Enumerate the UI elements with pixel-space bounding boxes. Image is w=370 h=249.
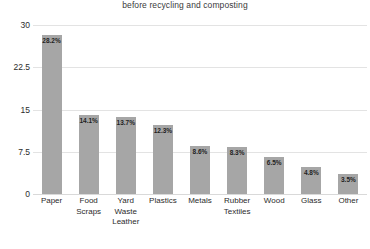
x-axis-category-line: Textiles: [220, 207, 255, 218]
x-axis-category-line: Glass: [294, 196, 329, 207]
y-axis-tick-label: 7.5: [2, 147, 30, 156]
x-axis-category-label: Paper: [33, 196, 70, 228]
bar-value-label: 14.1%: [79, 117, 97, 125]
bar-slot: 28.2%: [33, 25, 70, 194]
y-axis-tick-label: 30: [2, 21, 30, 30]
x-axis-category-line: Leather: [108, 217, 143, 228]
bar[interactable]: 28.2%: [42, 35, 62, 194]
bar-slot: 12.3%: [144, 25, 181, 194]
x-axis-category-line: Food: [71, 196, 106, 207]
bar-slot: 8.6%: [181, 25, 218, 194]
bar[interactable]: 8.6%: [190, 146, 210, 194]
gridline: [33, 194, 367, 195]
x-axis-category-line: Other: [331, 196, 366, 207]
bar-value-label: 6.5%: [267, 159, 282, 167]
bar-slot: 8.3%: [219, 25, 256, 194]
bar[interactable]: 4.8%: [301, 167, 321, 194]
bar-chart: before recycling and composting 07.51522…: [0, 0, 370, 249]
x-axis-category-line: Plastics: [145, 196, 180, 207]
bar[interactable]: 3.5%: [338, 174, 358, 194]
y-axis-tick-label: 15: [2, 105, 30, 114]
x-axis-category-label: Wood: [256, 196, 293, 228]
bars-container: 28.2%14.1%13.7%12.3%8.6%8.3%6.5%4.8%3.5%: [33, 25, 367, 194]
x-axis-category-label: Glass: [293, 196, 330, 228]
bar[interactable]: 6.5%: [264, 157, 284, 194]
x-axis-category-line: Rubber: [220, 196, 255, 207]
x-axis-category-line: Paper: [34, 196, 69, 207]
x-axis-category-label: Metals: [181, 196, 218, 228]
bar-value-label: 8.3%: [230, 149, 245, 157]
chart-title: before recycling and composting: [0, 0, 370, 11]
x-axis-category-line: Metals: [182, 196, 217, 207]
bar-value-label: 13.7%: [117, 119, 135, 127]
bar-value-label: 8.6%: [193, 148, 208, 156]
bar-value-label: 3.5%: [341, 176, 356, 184]
bar[interactable]: 14.1%: [79, 115, 99, 194]
y-axis-tick-label: 0: [2, 190, 30, 199]
x-axis-category-line: Yard Waste: [108, 196, 143, 217]
x-axis-category-label: RubberTextiles: [219, 196, 256, 228]
bar-value-label: 12.3%: [154, 127, 172, 135]
bar-value-label: 4.8%: [304, 169, 319, 177]
x-axis-category-label: Other: [330, 196, 367, 228]
bar-slot: 3.5%: [330, 25, 367, 194]
x-axis-category-label: Plastics: [144, 196, 181, 228]
bar[interactable]: 8.3%: [227, 147, 247, 194]
bar-slot: 13.7%: [107, 25, 144, 194]
y-axis: 07.51522.530: [0, 25, 30, 194]
x-axis-category-line: Scraps: [71, 207, 106, 218]
bar[interactable]: 13.7%: [116, 117, 136, 194]
x-axis-labels: PaperFoodScrapsYard WasteLeatherPlastics…: [33, 196, 367, 228]
bar-value-label: 28.2%: [42, 37, 60, 45]
bar-slot: 14.1%: [70, 25, 107, 194]
x-axis-category-label: FoodScraps: [70, 196, 107, 228]
bar-slot: 4.8%: [293, 25, 330, 194]
bar-slot: 6.5%: [256, 25, 293, 194]
x-axis-category-line: Wood: [257, 196, 292, 207]
x-axis-category-label: Yard WasteLeather: [107, 196, 144, 228]
bar[interactable]: 12.3%: [153, 125, 173, 194]
y-axis-tick-label: 22.5: [2, 63, 30, 72]
